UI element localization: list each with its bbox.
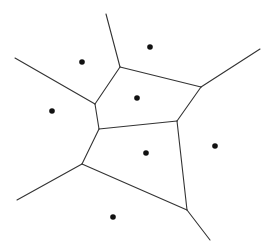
voronoi-site-point (147, 44, 153, 50)
voronoi-site-point (79, 59, 85, 65)
voronoi-site-point (49, 108, 55, 114)
voronoi-site-point (110, 214, 116, 220)
diagram-background (0, 0, 275, 252)
voronoi-site-point (212, 143, 218, 149)
voronoi-site-point (143, 150, 149, 156)
voronoi-diagram (0, 0, 275, 252)
voronoi-site-point (134, 95, 140, 101)
